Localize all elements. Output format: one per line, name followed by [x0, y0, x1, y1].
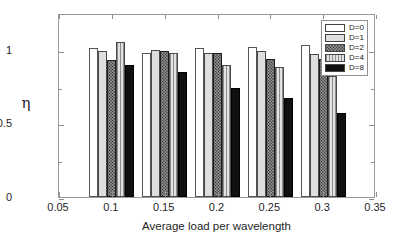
bar-D4-0.25	[275, 67, 284, 197]
bar-D8-0.25	[284, 98, 293, 197]
legend-swatch-icon	[325, 54, 345, 62]
x-axis-label: Average load per wavelength	[58, 220, 375, 232]
legend-label: D=4	[349, 54, 364, 62]
x-tick	[270, 192, 271, 197]
x-tick	[270, 15, 271, 19]
bar-D0-0.25	[248, 47, 257, 197]
y-tick-major	[369, 199, 374, 200]
x-tick	[323, 192, 324, 197]
x-tick	[376, 15, 377, 19]
x-tick-label: 0.1	[88, 202, 134, 213]
x-tick	[218, 192, 219, 197]
bar-D2-0.3	[319, 59, 328, 197]
x-tick	[112, 192, 113, 197]
legend-item-D4: D=4	[325, 53, 364, 63]
bar-D2-0.2	[213, 53, 222, 197]
x-tick-label: 0.35	[352, 202, 394, 213]
x-tick-label: 0.3	[299, 202, 345, 213]
bar-D1-0.25	[257, 51, 266, 197]
y-tick-major	[369, 52, 374, 53]
x-tick	[165, 15, 166, 19]
x-tick-label: 0.25	[246, 202, 292, 213]
y-tick-major	[59, 199, 64, 200]
x-tick	[376, 192, 377, 197]
x-tick-label: 0.2	[194, 202, 240, 213]
legend-label: D=8	[349, 64, 364, 72]
x-tick	[165, 192, 166, 197]
bar-D0-0.3	[301, 45, 310, 197]
y-tick-major	[59, 125, 64, 126]
bar-D2-0.15	[160, 51, 169, 197]
x-tick	[59, 192, 60, 197]
legend-swatch-icon	[325, 24, 345, 32]
legend-item-D1: D=1	[325, 33, 364, 43]
y-tick-label: 0.5	[0, 118, 12, 129]
bar-D8-0.15	[178, 72, 187, 197]
y-tick-major	[59, 52, 64, 53]
legend-label: D=1	[349, 34, 364, 42]
plot-area: D=0D=1D=2D=4D=8	[58, 14, 375, 198]
bar-D1-0.15	[151, 50, 160, 197]
x-tick-label: 0.05	[35, 202, 81, 213]
bar-D8-0.3	[337, 113, 346, 197]
bar-D4-0.1	[116, 42, 125, 197]
bar-D2-0.1	[107, 60, 116, 197]
figure-canvas: η D=0D=1D=2D=4D=8 00.51 0.050.10.150.20.…	[0, 0, 394, 242]
y-tick-label: 1	[0, 45, 12, 56]
bar-group	[89, 15, 134, 197]
legend-swatch-icon	[325, 44, 345, 52]
x-tick-label: 0.15	[141, 202, 187, 213]
legend-item-D8: D=8	[325, 63, 364, 73]
x-tick	[323, 15, 324, 19]
bar-group	[195, 15, 240, 197]
bar-D4-0.3	[328, 76, 337, 197]
y-tick-minor	[371, 89, 374, 90]
legend-swatch-icon	[325, 34, 345, 42]
bar-D0-0.2	[195, 48, 204, 197]
bar-D0-0.1	[89, 48, 98, 197]
bar-D0-0.15	[142, 53, 151, 197]
legend: D=0D=1D=2D=4D=8	[321, 20, 368, 76]
legend-label: D=0	[349, 24, 364, 32]
bar-D1-0.1	[98, 51, 107, 197]
bar-D4-0.2	[222, 65, 231, 197]
y-axis-label: η	[14, 96, 38, 111]
x-tick	[59, 15, 60, 19]
legend-item-D0: D=0	[325, 23, 364, 33]
bar-D4-0.15	[169, 53, 178, 197]
y-tick-label: 0	[0, 192, 12, 203]
bar-D8-0.2	[231, 88, 240, 197]
y-tick-minor	[59, 162, 62, 163]
y-tick-minor	[371, 162, 374, 163]
bar-group	[248, 15, 293, 197]
x-tick	[218, 15, 219, 19]
legend-item-D2: D=2	[325, 43, 364, 53]
legend-swatch-icon	[325, 64, 345, 72]
x-tick	[112, 15, 113, 19]
y-tick-major	[369, 125, 374, 126]
bar-D1-0.2	[204, 53, 213, 197]
bar-D1-0.3	[310, 54, 319, 197]
y-tick-minor	[59, 89, 62, 90]
bar-D8-0.1	[125, 65, 134, 197]
legend-label: D=2	[349, 44, 364, 52]
bar-group	[142, 15, 187, 197]
bar-D2-0.25	[266, 59, 275, 197]
